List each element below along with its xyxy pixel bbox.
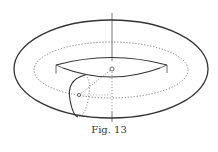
meridian-section-front [69,75,85,117]
radius-line [79,69,112,95]
inner-hole-left-cusp [56,65,63,73]
inner-hole-arc [56,58,167,66]
figure-caption: Fig. 13 [0,124,218,135]
center-point [110,67,114,71]
section-center-point [77,93,80,96]
inner-hole-right-cusp [160,65,167,73]
